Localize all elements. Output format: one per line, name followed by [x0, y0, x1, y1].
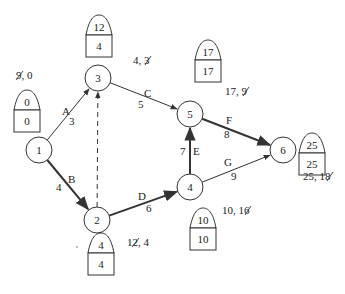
early-time-value: 4	[98, 258, 104, 270]
node-1-annotation-rest: , 0	[22, 69, 34, 81]
edge-label-E-activity: E	[193, 145, 200, 157]
time-box-node-3: 124	[86, 15, 112, 57]
time-box-node-6: 2525	[299, 133, 325, 175]
edge-label-F-duration: 8	[224, 128, 230, 140]
edges	[47, 83, 270, 216]
edge-label-D-duration: 6	[146, 202, 152, 214]
node-3-label: 3	[95, 72, 101, 84]
time-box-node-4: 1010	[190, 208, 216, 250]
node-2-annotation-rest: , 4	[138, 236, 150, 248]
late-time-value: 12	[94, 21, 105, 33]
late-time-value: 10	[198, 214, 210, 226]
edge-label-B-duration: 4	[56, 181, 62, 193]
early-time-value: 4	[96, 40, 102, 52]
time-box-node-1: 00	[14, 90, 40, 132]
node-5-label: 5	[187, 108, 193, 120]
node-4-annotation-struck: 6	[244, 204, 250, 216]
node-1: 1	[26, 137, 52, 163]
late-time-value: 0	[24, 96, 30, 108]
node-1-annotation: 9, 0	[16, 69, 33, 81]
early-time-value: 10	[198, 233, 210, 245]
early-time-value: 17	[203, 65, 215, 77]
node-4: 4	[177, 174, 203, 200]
node-4-label: 4	[187, 181, 193, 193]
node-6: 6	[270, 137, 296, 163]
stray-mark	[76, 246, 78, 248]
time-box-node-5: 1717	[195, 40, 221, 82]
edge-label-C-activity: C	[144, 87, 151, 99]
node-3: 3	[85, 65, 111, 91]
edge-F	[202, 119, 270, 145]
edge-label-G-duration: 9	[231, 170, 237, 182]
dummy-edge-2-3	[97, 92, 98, 207]
node-6-label: 6	[280, 144, 286, 156]
edge-label-C-duration: 5	[138, 98, 144, 110]
node-3-annotation: 4, 3	[133, 54, 150, 66]
edge-labels: A 3 B 4 C 5 D 6 E 7 F 8 G 9	[56, 87, 237, 214]
node-5: 5	[177, 101, 203, 127]
node-3-annotation-struck: 3	[144, 54, 150, 66]
early-time-value: 25	[307, 158, 319, 170]
node-3-annotation-pre: 4,	[133, 54, 144, 66]
late-time-value: 17	[203, 46, 215, 58]
node-6-annotation: 25, 18	[303, 170, 331, 182]
edge-label-B-activity: B	[68, 173, 75, 185]
late-time-value: 4	[98, 239, 104, 251]
edge-label-G-activity: G	[224, 156, 232, 168]
early-time-value: 0	[24, 115, 30, 127]
time-box-node-2: 44	[88, 233, 114, 275]
node-2-label: 2	[94, 214, 100, 226]
edge-label-D-activity: D	[138, 190, 146, 202]
node-5-annotation-pre: 17,	[225, 85, 242, 97]
edge-label-A-duration: 3	[69, 115, 75, 127]
node-5-annotation: 17, 9	[225, 85, 248, 97]
network-diagram: A 3 B 4 C 5 D 6 E 7 F 8 G 9 1 2 3 4 5 6	[0, 0, 345, 294]
late-time-value: 25	[307, 139, 319, 151]
edge-label-E-duration: 7	[180, 145, 186, 157]
node-2-annotation: 12, 4	[127, 236, 150, 248]
edge-label-F-activity: F	[226, 114, 232, 126]
node-1-label: 1	[36, 144, 42, 156]
node-4-annotation-pre: 10, 1	[222, 204, 244, 216]
node-6-annotation-pre: 25, 1	[303, 170, 325, 182]
node-2: 2	[84, 207, 110, 233]
